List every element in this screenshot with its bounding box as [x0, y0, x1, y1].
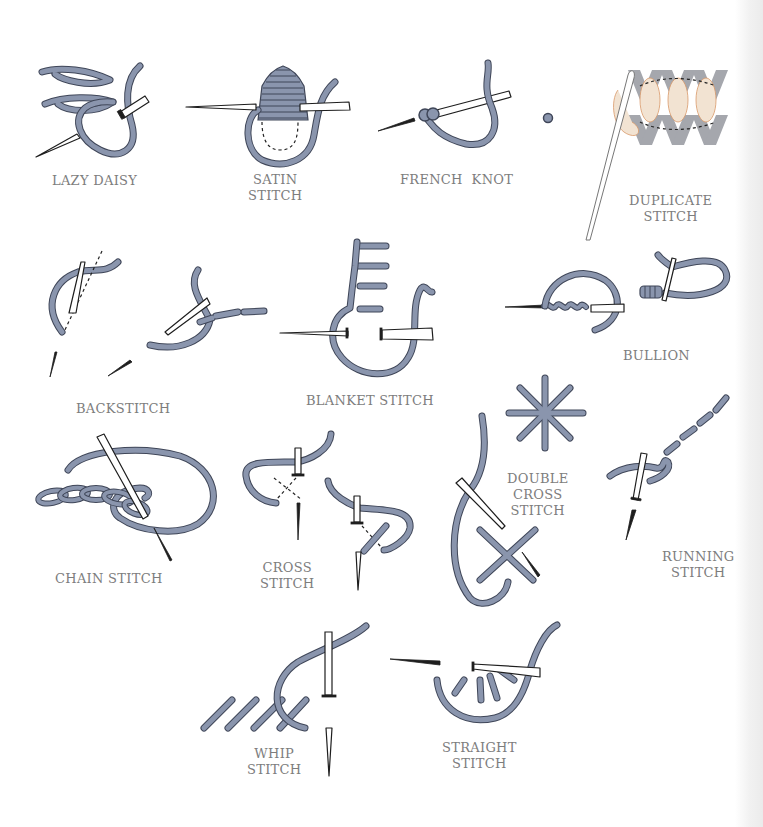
satin-stitch-label: SATIN STITCH [248, 172, 302, 204]
blanket-stitch-label: BLANKET STITCH [306, 393, 434, 409]
straight-stitch-label: STRAIGHT STITCH [442, 740, 517, 772]
double-cross-stitch-label: DOUBLE CROSS STITCH [507, 471, 569, 519]
page: .th-o { fill: none; stroke: #3f4658; str… [0, 0, 763, 827]
duplicate-stitch-label: DUPLICATE STITCH [629, 193, 712, 225]
french-knot-label: FRENCH KNOT [400, 172, 513, 188]
bullion-illustration [505, 255, 727, 330]
running-stitch-label: RUNNING STITCH [662, 549, 735, 581]
satin-stitch-illustration [186, 66, 350, 164]
whip-stitch-label: WHIP STITCH [247, 746, 301, 778]
blanket-stitch-illustration [280, 242, 433, 374]
backstitch-label: BACKSTITCH [76, 401, 170, 417]
chain-stitch-illustration [37, 434, 213, 561]
lazy-daisy-illustration [36, 66, 149, 157]
french-knot-illustration [378, 63, 553, 145]
running-stitch-illustration [610, 398, 726, 540]
straight-stitch-illustration [390, 625, 557, 720]
chain-stitch-label: CHAIN STITCH [55, 571, 163, 587]
backstitch-illustration [50, 251, 264, 377]
lazy-daisy-label: LAZY DAISY [52, 173, 137, 189]
cross-stitch-label: CROSS STITCH [260, 560, 314, 592]
bullion-label: BULLION [623, 348, 690, 364]
